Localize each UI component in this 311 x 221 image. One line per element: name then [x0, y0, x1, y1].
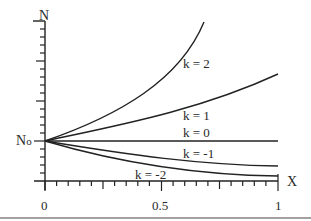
curve-label-k-2: k = 2 [183, 57, 210, 70]
n0-sub: o [26, 135, 32, 147]
curve-label-k-0: k = 0 [183, 126, 210, 139]
tick-label-1: 1 [275, 199, 282, 212]
y-axis-ticks [34, 29, 45, 173]
n0-label: No [16, 134, 32, 148]
x-axis-label: X [287, 175, 297, 188]
tick-label-0-5: 0.5 [152, 199, 168, 212]
tick-label-0: 0 [41, 199, 48, 212]
curve-label-k-1: k = 1 [183, 109, 210, 122]
chart-canvas [0, 0, 311, 221]
y-axis-label: N [39, 9, 49, 22]
curve-label-k-minus-2: k = -2 [135, 168, 166, 181]
curve-label-k-minus-1: k = -1 [183, 147, 214, 160]
curve-k-minus-1 [45, 141, 278, 166]
curve-k-1 [45, 74, 278, 141]
n0-main: N [16, 133, 26, 148]
